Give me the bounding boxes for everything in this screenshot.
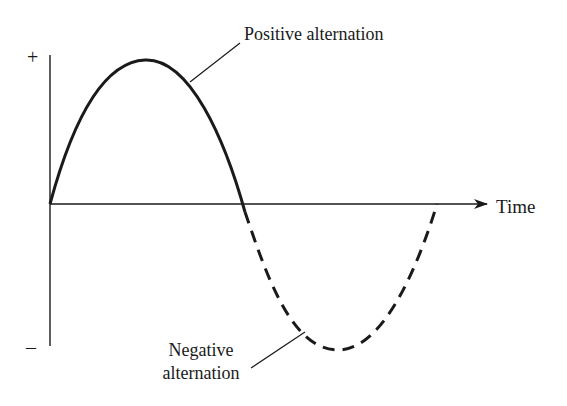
- positive-alternation-label: Positive alternation: [244, 24, 383, 44]
- negative-alternation-label-line1: Negative: [169, 340, 234, 360]
- negative-alternation-label-line2: alternation: [163, 363, 240, 383]
- time-label: Time: [496, 196, 535, 217]
- negative-leader-line: [251, 332, 305, 368]
- positive-alternation-curve: [50, 60, 245, 212]
- sine-wave-diagram: + – Time Positive alternation Negative a…: [0, 0, 567, 406]
- positive-leader-line: [190, 43, 240, 82]
- negative-alternation-curve: [245, 204, 437, 350]
- plus-label: +: [27, 46, 38, 68]
- minus-label: –: [25, 336, 37, 358]
